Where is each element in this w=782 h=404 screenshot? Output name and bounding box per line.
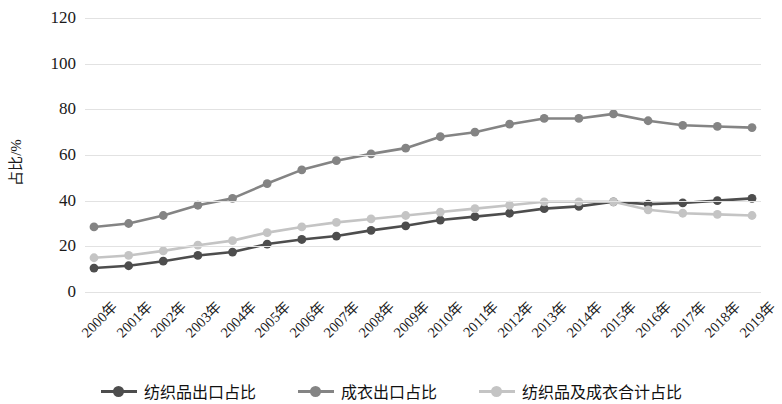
y-tick-label: 80	[30, 100, 76, 117]
chart-legend: 纺织品出口占比成衣出口占比纺织品及成衣合计占比	[0, 378, 782, 404]
data-point	[367, 215, 376, 224]
data-point	[713, 210, 722, 219]
legend-item[interactable]: 纺织品及成衣合计占比	[479, 379, 682, 403]
data-point	[228, 248, 237, 257]
data-point	[471, 128, 480, 137]
data-point	[609, 197, 618, 206]
series-1	[90, 194, 757, 272]
data-point	[263, 179, 272, 188]
data-point	[193, 241, 202, 250]
y-tick-label: 100	[30, 55, 76, 72]
legend-dot	[491, 386, 502, 397]
legend-dot	[113, 386, 124, 397]
data-point	[748, 123, 757, 132]
y-axis-tick-labels: 020406080100120	[24, 18, 76, 292]
data-point	[644, 116, 653, 125]
gridline	[85, 292, 761, 293]
data-point	[90, 253, 99, 262]
data-point	[748, 211, 757, 220]
data-point	[367, 226, 376, 235]
data-point	[644, 205, 653, 214]
legend-item[interactable]: 纺织品出口占比	[101, 379, 256, 403]
series-line	[94, 198, 752, 268]
gridline	[85, 201, 761, 202]
y-tick-label: 0	[30, 283, 76, 300]
gridline	[85, 64, 761, 65]
data-point	[159, 257, 168, 266]
data-point	[124, 251, 133, 260]
gridline	[85, 246, 761, 247]
plot-area	[85, 18, 761, 292]
data-point	[332, 232, 341, 241]
data-point	[332, 156, 341, 165]
data-point	[505, 201, 514, 210]
data-point	[574, 114, 583, 123]
y-axis-title: 占比/%	[4, 123, 25, 203]
data-point	[505, 209, 514, 218]
legend-label: 成衣出口占比	[341, 379, 437, 403]
gridline	[85, 109, 761, 110]
data-point	[436, 208, 445, 217]
data-point	[540, 114, 549, 123]
gridline	[85, 155, 761, 156]
data-point	[90, 264, 99, 273]
data-point	[505, 120, 514, 129]
data-point	[90, 223, 99, 232]
legend-label: 纺织品及成衣合计占比	[522, 379, 682, 403]
legend-marker-icon	[101, 385, 137, 397]
data-point	[401, 144, 410, 153]
data-point	[228, 236, 237, 245]
data-point	[263, 228, 272, 237]
x-axis-tick-labels: 2000年2001年2002年2003年2004年2005年2006年2007年…	[85, 296, 761, 366]
data-point	[193, 201, 202, 210]
y-tick-label: 60	[30, 146, 76, 163]
gridline	[85, 18, 761, 19]
data-point	[678, 121, 687, 130]
data-point	[297, 223, 306, 232]
y-tick-label: 40	[30, 192, 76, 209]
legend-marker-icon	[479, 385, 515, 397]
data-point	[678, 209, 687, 218]
data-point	[124, 219, 133, 228]
data-point	[367, 149, 376, 158]
y-tick-label: 120	[30, 9, 76, 26]
data-point	[124, 261, 133, 270]
series-line	[94, 202, 752, 258]
data-point	[159, 211, 168, 220]
data-point	[713, 122, 722, 131]
data-point	[471, 212, 480, 221]
data-point	[159, 247, 168, 256]
line-chart: 占比/% 020406080100120 2000年2001年2002年2003…	[0, 0, 782, 404]
data-point	[332, 218, 341, 227]
data-point	[193, 251, 202, 260]
legend-item[interactable]: 成衣出口占比	[298, 379, 437, 403]
legend-marker-icon	[298, 385, 334, 397]
legend-dot	[310, 386, 321, 397]
data-point	[471, 204, 480, 213]
data-point	[436, 132, 445, 141]
data-point	[540, 197, 549, 206]
data-point	[297, 165, 306, 174]
data-point	[436, 216, 445, 225]
data-point	[297, 235, 306, 244]
legend-label: 纺织品出口占比	[144, 379, 256, 403]
data-point	[574, 197, 583, 206]
data-point	[401, 211, 410, 220]
data-point	[609, 110, 618, 119]
y-tick-label: 20	[30, 237, 76, 254]
data-point	[401, 221, 410, 230]
